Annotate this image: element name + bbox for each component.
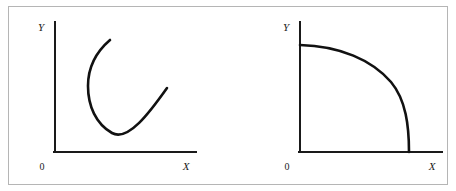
left-panel: Y X 0: [38, 21, 196, 172]
left-panel-x-axis-label: X: [182, 160, 191, 172]
right-panel-y-axis-label: Y: [283, 21, 291, 33]
figure-container: Y X 0 Y X 0: [0, 0, 456, 191]
right-panel-x-axis-label: X: [428, 160, 437, 172]
right-panel-origin-label: 0: [285, 161, 290, 172]
figure-frame-border: [9, 7, 448, 185]
left-panel-y-axis-label: Y: [38, 21, 46, 33]
left-panel-origin-label: 0: [40, 161, 45, 172]
right-panel-curve: [300, 45, 409, 152]
two-panel-graph-figure: Y X 0 Y X 0: [0, 0, 456, 191]
right-panel: Y X 0: [283, 21, 442, 172]
left-panel-curve: [88, 40, 167, 135]
